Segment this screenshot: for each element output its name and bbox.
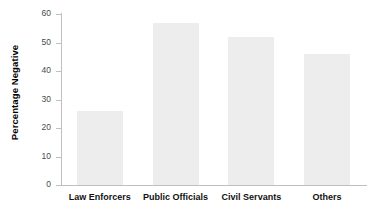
bar-chart: Percentage Negative 0102030405060 Law En… bbox=[0, 0, 380, 215]
y-tick-label: 10 bbox=[31, 152, 51, 161]
x-axis-line bbox=[61, 185, 367, 186]
bar bbox=[153, 23, 199, 185]
bar bbox=[77, 111, 123, 185]
y-tick bbox=[56, 14, 61, 15]
x-axis-label: Others bbox=[267, 193, 380, 203]
y-axis-title: Percentage Negative bbox=[8, 0, 22, 185]
y-tick bbox=[56, 100, 61, 101]
y-tick bbox=[56, 128, 61, 129]
plot-area bbox=[62, 14, 365, 185]
bar bbox=[228, 37, 274, 185]
y-tick-label: 50 bbox=[31, 38, 51, 47]
y-tick bbox=[56, 157, 61, 158]
y-tick-label: 40 bbox=[31, 66, 51, 75]
y-tick-label: 20 bbox=[31, 123, 51, 132]
y-tick bbox=[56, 185, 61, 186]
y-tick bbox=[56, 71, 61, 72]
y-tick-label: 60 bbox=[31, 9, 51, 18]
y-tick-label: 30 bbox=[31, 95, 51, 104]
y-tick bbox=[56, 43, 61, 44]
y-tick-label: 0 bbox=[31, 180, 51, 189]
bar bbox=[304, 54, 350, 185]
